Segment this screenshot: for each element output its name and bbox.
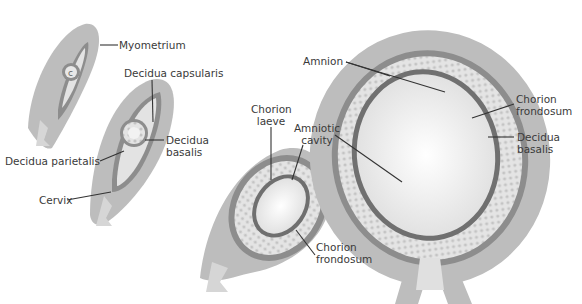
label-decidua-basalis-1-line2: basalis bbox=[166, 146, 209, 158]
label-decidua-capsularis: Decidua capsularis bbox=[124, 67, 223, 79]
label-decidua-parietalis: Decidua parietalis bbox=[5, 155, 100, 167]
label-cervix: Cervix bbox=[39, 194, 72, 206]
label-myometrium: Myometrium bbox=[119, 39, 186, 51]
label-amnion: Amnion bbox=[303, 55, 343, 67]
label-amniotic-cavity: Amniotic cavity bbox=[292, 122, 342, 146]
label-decidua-basalis-1: Decidua basalis bbox=[166, 134, 209, 158]
uterus-stage-2 bbox=[90, 79, 174, 226]
label-chorion-laeve-line1: Chorion bbox=[251, 103, 291, 115]
label-chorion-frondosum-2: Chorion frondosum bbox=[516, 93, 572, 117]
diagram-canvas: c bbox=[0, 0, 582, 304]
uterus-stage-1: c bbox=[28, 24, 99, 149]
label-chorion-frondosum-2-line2: frondosum bbox=[516, 105, 572, 117]
label-chorion-laeve-line2: laeve bbox=[251, 115, 291, 127]
label-decidua-basalis-2: Decidua basalis bbox=[517, 131, 560, 155]
label-chorion-frondosum-1: Chorion frondosum bbox=[316, 241, 372, 265]
label-decidua-basalis-1-line1: Decidua bbox=[166, 134, 209, 146]
label-chorion-frondosum-1-line1: Chorion bbox=[316, 241, 372, 253]
svg-text:c: c bbox=[68, 68, 73, 78]
label-chorion-frondosum-1-line2: frondosum bbox=[316, 253, 372, 265]
label-amniotic-cavity-line2: cavity bbox=[292, 134, 342, 146]
label-decidua-basalis-2-line1: Decidua bbox=[517, 131, 560, 143]
label-amniotic-cavity-line1: Amniotic bbox=[292, 122, 342, 134]
label-chorion-frondosum-2-line1: Chorion bbox=[516, 93, 572, 105]
label-decidua-basalis-2-line2: basalis bbox=[517, 143, 560, 155]
label-chorion-laeve: Chorion laeve bbox=[251, 103, 291, 127]
diagram-illustration: c bbox=[0, 0, 582, 304]
